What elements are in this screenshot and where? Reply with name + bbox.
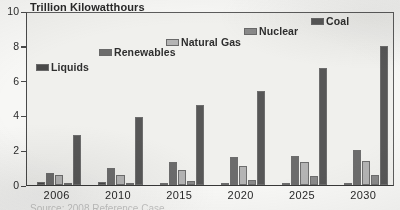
bar-coal-2015	[196, 105, 204, 185]
bar-liquids-2010	[98, 182, 106, 185]
legend-item-renewables[interactable]: Renewables	[99, 47, 176, 58]
legend-label: Natural Gas	[181, 37, 241, 48]
y-axis-tick-label: 6	[13, 75, 19, 88]
y-axis-tick-label: 10	[7, 5, 19, 18]
bar-renewables-2006	[46, 173, 54, 185]
bar-liquids-2025	[282, 183, 290, 185]
y-axis-tick-label: 0	[13, 179, 19, 192]
x-axis-label-2010: 2010	[105, 189, 131, 201]
bar-liquids-2030	[344, 183, 352, 185]
legend-swatch-icon	[244, 28, 257, 35]
legend-swatch-icon	[36, 64, 49, 71]
bar-nuclear-2030	[371, 175, 379, 185]
bar-renewables-2015	[169, 162, 177, 185]
x-axis-label-2006: 2006	[44, 189, 70, 201]
legend-item-liquids[interactable]: Liquids	[36, 62, 89, 73]
bar-coal-2020	[257, 91, 265, 185]
legend-item-natural-gas[interactable]: Natural Gas	[166, 37, 241, 48]
source-note: Source: 2008 Reference Case	[30, 203, 165, 210]
legend-swatch-icon	[166, 39, 179, 46]
y-axis-tick-label: 4	[13, 109, 19, 122]
bar-coal-2030	[380, 46, 388, 185]
bar-natural-gas-2030	[362, 161, 370, 185]
legend-item-nuclear[interactable]: Nuclear	[244, 26, 298, 37]
bar-natural-gas-2006	[55, 175, 63, 185]
bar-nuclear-2015	[187, 181, 195, 185]
bar-renewables-2010	[107, 168, 115, 185]
legend-item-coal[interactable]: Coal	[311, 16, 349, 27]
x-axis-label-2025: 2025	[289, 189, 315, 201]
bar-liquids-2020	[221, 183, 229, 185]
x-axis-label-2030: 2030	[350, 189, 376, 201]
bar-coal-2006	[73, 135, 81, 185]
legend-label: Liquids	[51, 62, 89, 73]
bar-natural-gas-2025	[300, 162, 308, 185]
bar-coal-2025	[319, 68, 327, 185]
bar-natural-gas-2020	[239, 166, 247, 185]
x-axis-label-2020: 2020	[228, 189, 254, 201]
y-axis-tick-label: 2	[13, 144, 19, 157]
bar-natural-gas-2010	[116, 175, 124, 185]
bar-nuclear-2020	[248, 180, 256, 185]
bar-coal-2010	[135, 117, 143, 185]
bar-nuclear-2010	[126, 183, 134, 185]
bar-liquids-2015	[160, 183, 168, 185]
bar-renewables-2025	[291, 156, 299, 185]
legend-swatch-icon	[99, 49, 112, 56]
bar-liquids-2006	[37, 182, 45, 185]
y-axis-tick-label: 8	[13, 40, 19, 53]
y-axis: 0246810	[0, 12, 26, 186]
bar-renewables-2020	[230, 157, 238, 185]
bar-natural-gas-2015	[178, 170, 186, 185]
bar-nuclear-2025	[310, 176, 318, 185]
chart-figure: Trillion Kilowatthours 0246810 200620102…	[0, 0, 400, 210]
legend-label: Nuclear	[259, 26, 298, 37]
legend-label: Renewables	[114, 47, 176, 58]
legend-label: Coal	[326, 16, 349, 27]
x-axis-label-2015: 2015	[166, 189, 192, 201]
bar-nuclear-2006	[64, 183, 72, 185]
legend-swatch-icon	[311, 18, 324, 25]
bar-renewables-2030	[353, 150, 361, 185]
